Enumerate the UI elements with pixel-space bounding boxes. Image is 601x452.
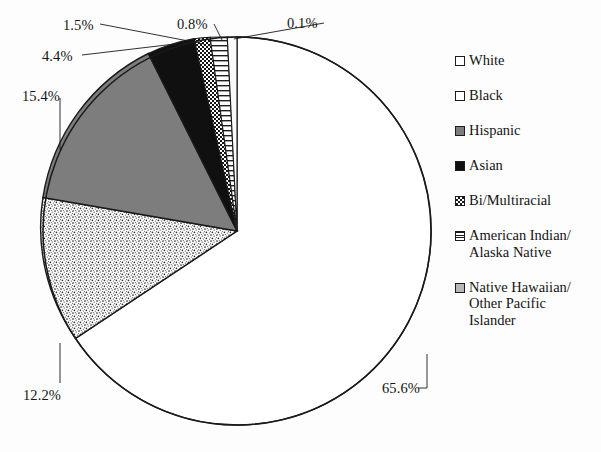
legend-label-asian: Asian [469, 157, 503, 174]
legend-swatch-white-icon [455, 56, 465, 66]
legend-swatch-american-indian-icon [455, 231, 465, 241]
legend-swatch-black-icon [455, 91, 465, 101]
legend-label-white: White [469, 52, 504, 69]
pie-slices [41, 37, 432, 425]
pct-label-asian: 4.4% [42, 48, 73, 65]
legend-label-bimultiracial: Bi/Multiracial [469, 192, 551, 209]
pct-label-white: 65.6% [382, 380, 420, 397]
chart-legend: White Black Hispanic Asian Bi/Multiracia… [455, 52, 601, 347]
legend-item-asian: Asian [455, 157, 601, 174]
pct-label-hispanic: 15.4% [22, 88, 60, 105]
legend-swatch-hispanic-icon [455, 126, 465, 136]
legend-label-native-hawaiian: Native Hawaiian/ Other Pacific Islander [469, 279, 571, 329]
legend-item-white: White [455, 52, 601, 69]
legend-swatch-native-hawaiian-icon [455, 283, 465, 293]
legend-item-bimultiracial: Bi/Multiracial [455, 192, 601, 209]
pct-label-american-indian: 0.8% [177, 16, 208, 33]
pie-chart-figure: 1.5% 0.8% 0.1% 4.4% 15.4% 12.2% 65.6% Wh… [0, 0, 601, 452]
legend-label-black: Black [469, 87, 503, 104]
pct-label-native-hawaiian: 0.1% [287, 15, 318, 32]
legend-item-native-hawaiian: Native Hawaiian/ Other Pacific Islander [455, 279, 601, 329]
pct-label-black: 12.2% [23, 387, 61, 404]
legend-swatch-bimultiracial-icon [455, 196, 465, 206]
legend-swatch-asian-icon [455, 161, 465, 171]
legend-item-black: Black [455, 87, 601, 104]
legend-label-hispanic: Hispanic [469, 122, 521, 139]
legend-item-hispanic: Hispanic [455, 122, 601, 139]
legend-label-american-indian: American Indian/ Alaska Native [469, 227, 571, 260]
pct-label-bimultiracial: 1.5% [63, 17, 94, 34]
legend-item-american-indian: American Indian/ Alaska Native [455, 227, 601, 260]
